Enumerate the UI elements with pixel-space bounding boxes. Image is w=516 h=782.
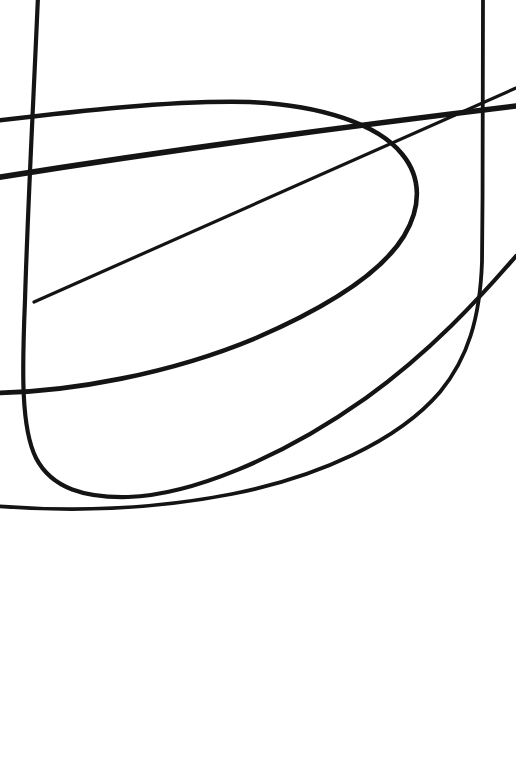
drawing-canvas xyxy=(0,0,516,782)
drawing-surface xyxy=(0,0,516,782)
